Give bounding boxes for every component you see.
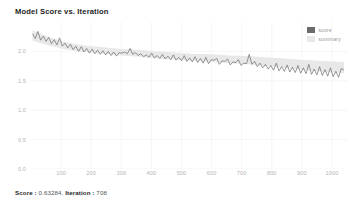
x-tick-label: 900 (297, 170, 307, 176)
x-tick-label: 100 (56, 170, 66, 176)
y-axis-tick-labels: 0.00.51.01.52.0 (0, 22, 26, 169)
legend-item[interactable]: score (307, 27, 332, 33)
legend-label: summary (318, 36, 341, 42)
x-axis-tick-labels: 1002003004005006007008009001000 (31, 170, 347, 180)
iteration-value: 708 (96, 189, 107, 196)
status-readout: Score : 0.63284, Iteration : 708 (15, 189, 107, 196)
x-tick-label: 800 (267, 170, 277, 176)
y-tick-label: 0.5 (18, 137, 26, 143)
x-tick-label: 200 (86, 170, 96, 176)
x-tick-label: 1000 (326, 170, 339, 176)
score-label: Score : (15, 189, 37, 196)
y-tick-label: 1.0 (18, 107, 26, 113)
x-tick-label: 500 (177, 170, 187, 176)
score-value: 0.63284, (39, 189, 64, 196)
x-tick-label: 400 (147, 170, 157, 176)
series-lines (31, 22, 347, 169)
x-tick-label: 600 (207, 170, 217, 176)
x-tick-label: 700 (237, 170, 247, 176)
legend-swatch-score (307, 27, 315, 33)
legend-swatch-summary (307, 36, 315, 42)
plot-area[interactable] (31, 22, 347, 169)
y-tick-label: 1.5 (18, 78, 26, 84)
legend-label: score (318, 27, 332, 33)
legend-item[interactable]: summary (307, 36, 341, 42)
chart-title: Model Score vs. Iteration (15, 7, 109, 16)
y-tick-label: 2.0 (18, 48, 26, 54)
x-tick-label: 300 (116, 170, 126, 176)
y-tick-label: 0.0 (18, 166, 26, 172)
chart-legend: scoresummary (307, 27, 341, 42)
iteration-label: Iteration : (65, 189, 94, 196)
chart-widget: Model Score vs. Iteration 0.00.51.01.52.… (0, 0, 355, 203)
